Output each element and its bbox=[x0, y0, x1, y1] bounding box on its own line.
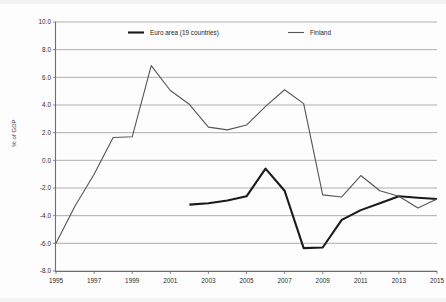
y-tick-label: 0.0 bbox=[42, 157, 51, 164]
x-tick-label: 1995 bbox=[49, 277, 64, 284]
y-tick-label: -2.0 bbox=[40, 184, 51, 191]
x-tick-label: 2015 bbox=[430, 277, 445, 284]
x-tick-label: 1997 bbox=[87, 277, 102, 284]
x-tick-label: 1999 bbox=[125, 277, 140, 284]
x-tick-label: 2003 bbox=[201, 277, 216, 284]
axes-group bbox=[55, 22, 437, 272]
data-series-group bbox=[56, 66, 437, 249]
x-tick-label: 2005 bbox=[239, 277, 254, 284]
y-tick-label: 6.0 bbox=[42, 74, 51, 81]
x-axis-ticks-group: 1995199719992001200320052007200920112013… bbox=[49, 271, 445, 284]
legend-label-euro-area: Euro area (19 countries) bbox=[150, 29, 219, 37]
x-tick-label: 2011 bbox=[354, 277, 368, 284]
x-tick-label: 2009 bbox=[316, 277, 331, 284]
chart-container: % of GDP 10.08.06.04.02.00.0-2.0-4.0-6.0… bbox=[0, 0, 446, 302]
y-tick-label: 4.0 bbox=[42, 101, 51, 108]
line-chart-svg: 10.08.06.04.02.00.0-2.0-4.0-6.0-8.0 1995… bbox=[0, 0, 446, 302]
y-tick-label: 10.0 bbox=[39, 18, 52, 25]
legend-label-finland: Finland bbox=[310, 29, 331, 36]
chart-legend: Euro area (19 countries)Finland bbox=[128, 29, 331, 37]
x-tick-label: 2001 bbox=[163, 277, 178, 284]
x-tick-label: 2013 bbox=[392, 277, 407, 284]
y-tick-label: 8.0 bbox=[42, 46, 51, 53]
y-axis-ticks-group: 10.08.06.04.02.00.0-2.0-4.0-6.0-8.0 bbox=[39, 18, 56, 274]
y-tick-label: -8.0 bbox=[40, 267, 51, 274]
y-tick-label: -4.0 bbox=[40, 212, 51, 219]
y-tick-label: 2.0 bbox=[42, 129, 51, 136]
gridlines-group bbox=[56, 22, 437, 271]
x-tick-label: 2007 bbox=[277, 277, 292, 284]
series-line-finland bbox=[56, 66, 437, 244]
series-line-euro-area-19-countries bbox=[189, 169, 437, 249]
y-tick-label: -6.0 bbox=[40, 240, 51, 247]
